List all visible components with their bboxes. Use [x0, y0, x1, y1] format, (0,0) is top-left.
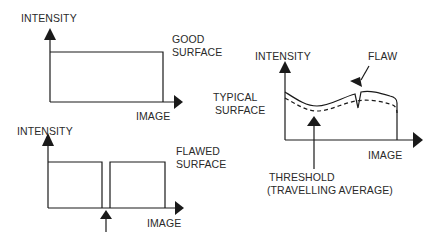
x-axis-arrow-icon	[174, 95, 183, 109]
intensity-signal-right	[110, 162, 165, 208]
flaw-pointer-shaft	[361, 66, 369, 80]
good-surface-panel	[44, 28, 183, 109]
typical-surface-x-axis-label: IMAGE	[368, 149, 402, 161]
good-surface-y-axis-label: INTENSITY	[21, 12, 77, 24]
threshold-label-line1: THRESHOLD	[269, 171, 335, 183]
x-axis-arrow-icon	[413, 132, 423, 148]
flawed-surface-caption-line1: FLAWED	[176, 145, 220, 157]
flaw-pointer-arrow-icon	[350, 77, 362, 87]
typical-surface-y-axis-label: INTENSITY	[255, 50, 311, 62]
typical-surface-caption-line2: SURFACE	[215, 104, 265, 116]
flaw-label: FLAW	[368, 50, 397, 62]
flawed-surface-x-axis-label: IMAGE	[147, 217, 181, 229]
typical-surface-caption-line1: TYPICAL	[213, 91, 257, 103]
y-axis-arrow-icon	[44, 28, 56, 40]
threshold-curve	[285, 98, 397, 113]
intensity-signal	[285, 91, 397, 140]
good-surface-caption-line2: SURFACE	[172, 46, 222, 58]
y-axis-arrow-icon	[279, 61, 291, 73]
diagram-canvas	[0, 0, 442, 241]
x-axis-arrow-icon	[175, 201, 184, 215]
intensity-signal	[50, 52, 163, 102]
threshold-pointer-arrow-icon	[307, 116, 321, 126]
good-surface-x-axis-label: IMAGE	[136, 110, 170, 122]
flawed-surface-caption-line2: SURFACE	[176, 158, 226, 170]
flawed-surface-y-axis-label: INTENSITY	[17, 125, 73, 137]
good-surface-caption-line1: GOOD	[172, 33, 205, 45]
intensity-signal-left	[48, 162, 102, 208]
threshold-label-line2: (TRAVELLING AVERAGE)	[267, 184, 393, 196]
flaw-pointer-arrow-icon	[100, 210, 112, 219]
